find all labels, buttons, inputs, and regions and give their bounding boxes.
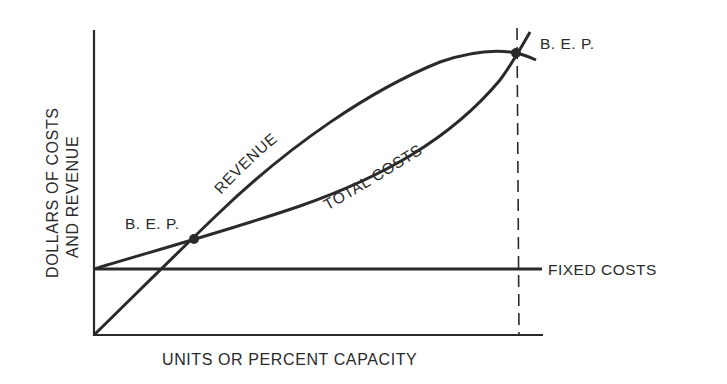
capacity-dashed-line xyxy=(517,28,519,335)
fixed-costs-label: FIXED COSTS xyxy=(548,261,657,278)
y-axis-title-line2: AND REVENUE xyxy=(64,136,81,258)
bep-high-marker xyxy=(511,48,521,58)
chart-svg: REVENUE TOTAL COSTS B. E. P. B. E. P. FI… xyxy=(0,0,727,384)
bep-high-label: B. E. P. xyxy=(540,35,595,52)
y-axis-title-line1: DOLLARS OF COSTS xyxy=(44,107,61,278)
bep-low-label: B. E. P. xyxy=(125,215,180,232)
total-costs-label: TOTAL COSTS xyxy=(321,141,426,213)
x-axis-title: UNITS OR PERCENT CAPACITY xyxy=(162,351,417,368)
total-costs-curve xyxy=(94,32,530,269)
bep-low-marker xyxy=(189,234,199,244)
revenue-curve xyxy=(94,51,536,335)
break-even-chart: REVENUE TOTAL COSTS B. E. P. B. E. P. FI… xyxy=(0,0,727,384)
